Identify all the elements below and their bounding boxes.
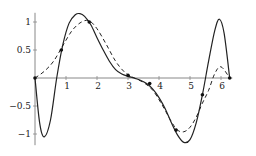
x-tick-label: 2 [95,81,101,91]
data-points [33,20,231,132]
x-tick-label: 1 [64,81,70,91]
data-point [60,48,64,52]
data-point [87,20,91,24]
axes [35,13,232,145]
data-point [201,93,205,97]
data-point [174,128,178,132]
y-tick-label: 1 [25,17,31,27]
y-tick-label: −1 [18,129,31,139]
data-point [126,73,130,77]
x-tick-label: 4 [157,81,163,91]
x-tick-label: 6 [219,81,225,91]
data-point [148,82,152,86]
line-chart: 123456−1−0.50.51 [0,0,256,156]
data-point [33,76,37,80]
y-tick-label: 0.5 [17,45,32,55]
x-tick-label: 5 [188,81,194,91]
x-tick-label: 3 [126,81,132,91]
y-tick-label: −0.5 [9,101,31,111]
data-point [228,76,232,80]
